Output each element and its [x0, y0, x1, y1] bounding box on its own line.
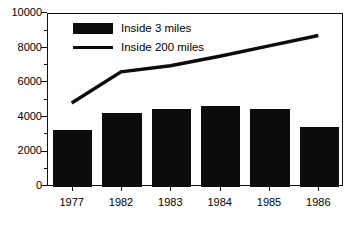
x-major-tick	[121, 186, 122, 191]
legend-swatch-line-icon	[73, 42, 113, 53]
y-major-tick	[41, 151, 47, 152]
y-major-tick	[41, 185, 47, 186]
y-major-tick	[41, 116, 47, 117]
y-minor-tick	[44, 99, 47, 100]
y-minor-tick	[44, 64, 47, 65]
x-major-tick	[318, 186, 319, 191]
bar-line-combo-chart: 0200040006000800010000 Inside 3 miles In…	[0, 0, 356, 227]
legend-swatch-bar-icon	[73, 23, 113, 34]
y-minor-tick	[44, 168, 47, 169]
legend-label-inside-200-miles: Inside 200 miles	[121, 41, 204, 53]
x-major-tick	[170, 186, 171, 191]
x-major-tick	[72, 186, 73, 191]
x-tick-label-1986: 1986	[306, 196, 330, 208]
x-tick-label-1984: 1984	[207, 196, 231, 208]
legend-item-inside-200-miles: Inside 200 miles	[73, 39, 204, 55]
y-axis: 0200040006000800010000	[0, 0, 42, 227]
y-tick-label: 8000	[18, 42, 42, 53]
legend-item-inside-3-miles: Inside 3 miles	[73, 20, 204, 36]
y-major-tick	[41, 47, 47, 48]
x-tick-label-1982: 1982	[109, 196, 133, 208]
y-minor-tick	[44, 30, 47, 31]
y-major-tick	[41, 81, 47, 82]
chart-legend: Inside 3 miles Inside 200 miles	[73, 20, 204, 58]
x-tick-label-1977: 1977	[59, 196, 83, 208]
y-major-tick	[41, 12, 47, 13]
y-tick-label: 6000	[18, 76, 42, 87]
y-tick-label: 2000	[18, 145, 42, 156]
x-major-tick	[220, 186, 221, 191]
y-tick-label: 10000	[11, 7, 42, 18]
x-tick-label-1983: 1983	[158, 196, 182, 208]
legend-label-inside-3-miles: Inside 3 miles	[121, 22, 191, 34]
y-minor-tick	[44, 133, 47, 134]
y-tick-label: 4000	[18, 111, 42, 122]
x-tick-label-1985: 1985	[257, 196, 281, 208]
x-major-tick	[269, 186, 270, 191]
